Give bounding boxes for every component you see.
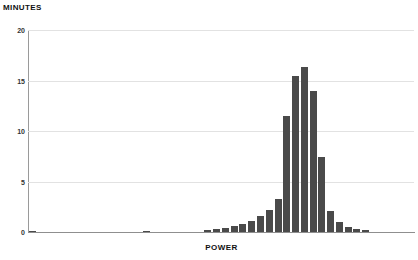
x-axis-title: POWER — [28, 243, 415, 252]
y-axis-tick-label: 20 — [3, 27, 25, 34]
bar — [301, 67, 308, 232]
bar — [336, 222, 343, 232]
bar — [353, 229, 360, 232]
bar — [204, 230, 211, 232]
bar — [362, 230, 369, 232]
bar — [29, 231, 36, 233]
bar — [345, 227, 352, 232]
bar — [318, 157, 325, 232]
bar — [310, 91, 317, 232]
bar — [283, 116, 290, 232]
bar — [275, 199, 282, 232]
gridline — [28, 232, 414, 233]
bar — [327, 211, 334, 232]
bar — [231, 226, 238, 232]
plot-area — [28, 30, 414, 232]
y-axis-tick-label: 15 — [3, 78, 25, 85]
bar — [292, 76, 299, 232]
y-axis-tick-labels: 05101520 — [0, 0, 25, 260]
bar — [239, 224, 246, 232]
histogram-chart: MINUTES 05101520 POWER — [0, 0, 418, 260]
y-axis-tick-label: 5 — [3, 179, 25, 186]
y-axis-tick-label: 10 — [3, 128, 25, 135]
bar — [248, 221, 255, 232]
bar — [143, 231, 150, 233]
bar-series — [28, 30, 414, 232]
bar — [257, 216, 264, 232]
bar — [222, 228, 229, 232]
y-axis-tick-label: 0 — [3, 229, 25, 236]
bar — [213, 229, 220, 232]
bar — [266, 210, 273, 232]
